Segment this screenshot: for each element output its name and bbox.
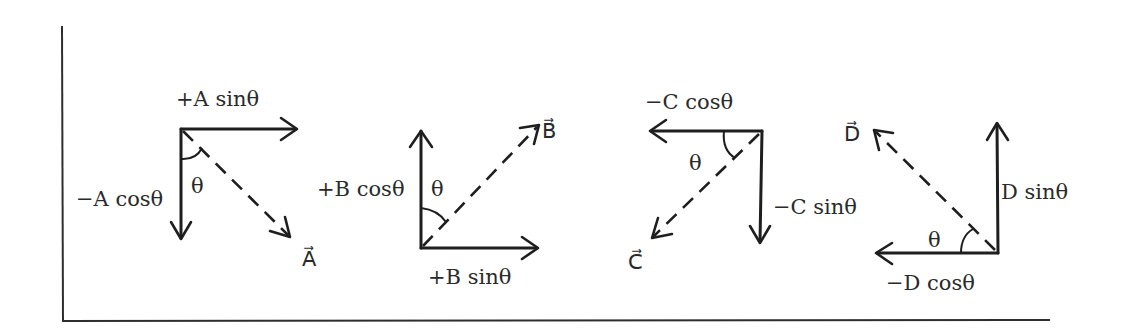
- component-arrow-c-vertical: [750, 131, 770, 243]
- label-d-vertical: D sinθ: [1001, 180, 1068, 204]
- label-b-vertical: +B cosθ: [317, 177, 405, 201]
- angle-arc-d: [961, 229, 973, 253]
- label-d-horizontal: −D cosθ: [886, 271, 975, 295]
- angle-arc-b: [421, 208, 446, 222]
- label-c-vertical: −C sinθ: [773, 195, 857, 219]
- angle-arc-a: [181, 148, 202, 159]
- component-arrow-a-horizontal: [181, 118, 297, 140]
- angle-arc-c: [724, 131, 735, 158]
- angle-label-b: θ: [431, 177, 444, 201]
- diagram-vector-b: +B cosθ θ B⃗ +B sinθ: [317, 118, 556, 289]
- diagram-vector-c: −C cosθ θ −C sinθ C⃗: [628, 90, 857, 274]
- vector-label-b: B⃗: [542, 118, 556, 143]
- diagram-vector-a: +A sinθ −A cosθ θ A⃗: [76, 87, 317, 271]
- label-c-horizontal: −C cosθ: [645, 90, 733, 114]
- component-arrow-b-horizontal: [421, 237, 538, 259]
- angle-label-c: θ: [689, 151, 702, 175]
- component-arrow-b-vertical: [410, 131, 432, 248]
- resultant-arrow-c: [652, 134, 759, 238]
- vector-components-figure: +A sinθ −A cosθ θ A⃗ +B cosθ θ B⃗ +B sin…: [0, 0, 1142, 333]
- label-a-horizontal: +A sinθ: [176, 87, 259, 111]
- angle-label-d: θ: [928, 228, 941, 252]
- component-arrow-a-vertical: [171, 129, 191, 239]
- diagram-vector-d: D⃗ D sinθ θ −D cosθ: [844, 121, 1068, 295]
- vector-label-a: A⃗: [302, 246, 317, 271]
- label-a-vertical: −A cosθ: [76, 187, 163, 211]
- vector-label-d: D⃗: [844, 121, 860, 146]
- component-arrow-c-horizontal: [650, 120, 762, 142]
- vector-label-c: C⃗: [628, 249, 643, 274]
- label-b-horizontal: +B sinθ: [428, 265, 511, 289]
- angle-label-a: θ: [191, 174, 204, 198]
